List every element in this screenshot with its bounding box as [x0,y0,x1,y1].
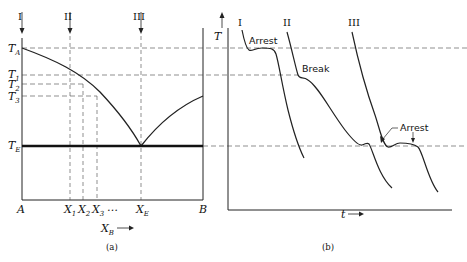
y-axis-label-T: T [214,30,223,43]
curve-label-II: II [283,17,291,28]
arrow-right-icon [129,226,134,231]
caption-a: (a) [106,242,118,252]
cooling-curve-II [287,32,392,188]
x-label-XE: XE [135,203,149,218]
arrow-down-icon [68,28,73,34]
liquidus-curve-A [22,48,141,146]
composition-label-I: I [18,11,22,22]
panel-a [20,12,467,200]
curve-label-I: I [238,17,242,28]
temp-label-TA: TA [8,42,20,57]
composition-label-III: III [133,11,145,22]
x-axis-label-t: t [341,208,346,221]
panel-a-labels: I II III TA T1 T2 T3 TE A X1 X2 X3 … XE … [8,11,207,252]
annotation-arrest-III: Arrest [400,122,429,133]
x-label-X3: X3 [91,203,105,218]
x-label-B: B [198,203,207,216]
temp-label-TE: TE [8,139,20,154]
x-label-X1: X1 [63,203,76,218]
phase-diagram-figure: I II III TA T1 T2 T3 TE A X1 X2 X3 … XE … [0,0,467,262]
x-axis-label-XB: XB [100,222,114,237]
arrow-up-icon [220,12,225,18]
panel-b-labels: T I II III Arrest Break Arrest t (b) [214,17,429,252]
composition-guides [70,36,141,200]
cooling-curve-I [242,30,304,158]
cooling-curve-III [352,32,438,192]
liquidus-curve-B [141,96,203,146]
arrest-pointer-line [382,128,398,140]
x-label-A: A [16,203,25,216]
x-label-X2: X2 [77,203,91,218]
caption-b: (b) [322,242,334,252]
arrow-down-icon [20,28,25,34]
curve-label-III: III [348,17,360,28]
annotation-break-II: Break [302,63,330,74]
arrow-down-icon [139,28,144,34]
arrow-down-icon [411,138,415,143]
composition-label-II: II [64,11,72,22]
annotation-arrest-I: Arrest [249,35,278,46]
x-label-ellipsis: … [107,201,118,214]
arrow-right-icon [359,212,364,217]
